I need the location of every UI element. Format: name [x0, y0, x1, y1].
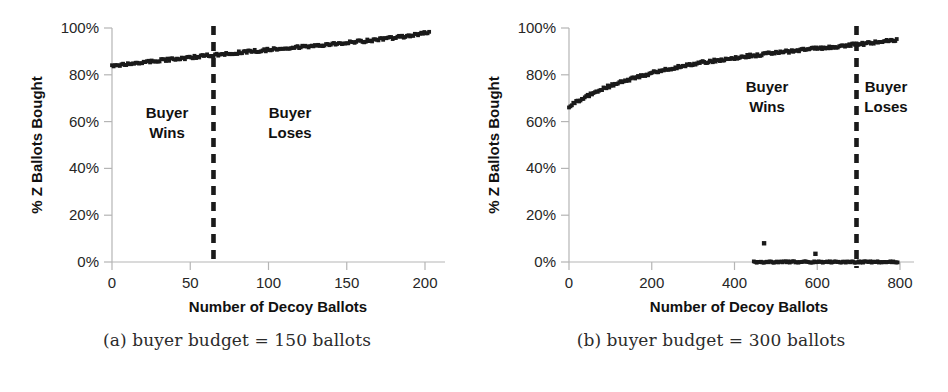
y-tick-label: 40% [526, 159, 556, 176]
y-axis-title-b: % Z Ballots Bought [485, 76, 502, 214]
panel-b: 100% 80% 60% 40% 20% 0% 0 200 400 600 80… [474, 0, 948, 392]
x-tick-labels-b: 0 200 400 600 800 [565, 274, 913, 291]
y-tick-labels-a: 100% 80% 60% 40% 20% 0% [61, 19, 99, 270]
x-tick-label: 50 [182, 274, 199, 291]
buyer-loses-label-line1: Buyer [865, 78, 908, 95]
region-labels-a: Buyer Wins Buyer Loses [146, 104, 312, 141]
buyer-wins-label-line1: Buyer [146, 104, 189, 121]
buyer-wins-label-line1: Buyer [746, 78, 789, 95]
x-axis-title-b: Number of Decoy Ballots [650, 298, 828, 315]
buyer-loses-label-line2: Loses [268, 124, 311, 141]
x-tick-label: 100 [256, 274, 281, 291]
x-tick-label: 0 [108, 274, 116, 291]
x-tick-label: 150 [334, 274, 359, 291]
panel-b-caption: (b) buyer budget = 300 ballots [474, 330, 948, 350]
buyer-wins-label-line2: Wins [149, 124, 185, 141]
y-tick-label: 100% [518, 19, 556, 36]
x-tick-label: 400 [722, 274, 747, 291]
buyer-loses-label-line2: Loses [864, 98, 907, 115]
buyer-wins-label-line2: Wins [749, 98, 785, 115]
y-tick-label: 40% [69, 159, 99, 176]
y-tick-label: 20% [69, 206, 99, 223]
x-tick-label: 800 [887, 274, 912, 291]
y-tick-label: 0% [534, 253, 556, 270]
y-tick-label: 0% [77, 253, 99, 270]
y-tick-label: 60% [69, 113, 99, 130]
y-axis-title-a: % Z Ballots Bought [28, 76, 45, 214]
y-tick-label: 100% [61, 19, 99, 36]
x-axis-title-a: Number of Decoy Ballots [189, 298, 367, 315]
panel-a: 100% 80% 60% 40% 20% 0% 0 50 100 150 200 [0, 0, 474, 392]
y-tick-label: 20% [526, 206, 556, 223]
chart-a-svg: 100% 80% 60% 40% 20% 0% 0 50 100 150 200 [0, 0, 474, 320]
data-markers-a [110, 30, 431, 68]
buyer-loses-label-line1: Buyer [269, 104, 312, 121]
y-tick-labels-b: 100% 80% 60% 40% 20% 0% [518, 19, 556, 270]
panel-b-plot: 100% 80% 60% 40% 20% 0% 0 200 400 600 80… [474, 0, 948, 320]
x-tick-label: 200 [639, 274, 664, 291]
x-tick-labels-a: 0 50 100 150 200 [108, 274, 438, 291]
data-markers-b [567, 37, 899, 264]
panel-a-caption: (a) buyer budget = 150 ballots [0, 330, 474, 350]
y-tick-label: 80% [69, 66, 99, 83]
x-tick-label: 600 [805, 274, 830, 291]
y-ticks-b [561, 28, 569, 262]
panel-a-plot: 100% 80% 60% 40% 20% 0% 0 50 100 150 200 [0, 0, 474, 320]
region-labels-b: Buyer Wins Buyer Loses [746, 78, 908, 115]
x-ticks-a [112, 262, 425, 270]
x-tick-label: 200 [412, 274, 437, 291]
y-tick-label: 60% [526, 113, 556, 130]
y-ticks-a [104, 28, 112, 262]
chart-b-svg: 100% 80% 60% 40% 20% 0% 0 200 400 600 80… [474, 0, 948, 320]
y-tick-label: 80% [526, 66, 556, 83]
x-tick-label: 0 [565, 274, 573, 291]
figure-row: 100% 80% 60% 40% 20% 0% 0 50 100 150 200 [0, 0, 948, 392]
